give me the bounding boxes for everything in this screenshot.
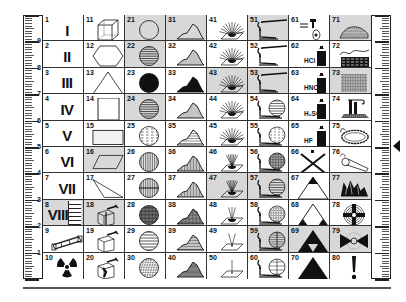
pillar-structure-icon (338, 98, 370, 120)
symbol-cell-10: 10 (43, 253, 84, 279)
symbol-cell-58: 58 (248, 200, 289, 226)
ruler-tick (25, 171, 32, 172)
mountain-outline-icon (174, 19, 206, 41)
ruler-tick (25, 97, 32, 98)
ruler-tick (25, 234, 32, 235)
symbol-cell-40: 40 (166, 253, 207, 279)
ruler-tick (382, 63, 389, 64)
chemical-formula-label: HCl (304, 57, 315, 64)
ruler-tick (380, 239, 389, 240)
ruler-tick (25, 131, 32, 132)
cell-number: 2 (45, 42, 49, 49)
ruler-tick (382, 179, 389, 180)
burst-plane-icon (215, 98, 247, 120)
torch-circle-crosshatch-icon (256, 151, 288, 173)
ruler-tick (382, 176, 389, 177)
symbol-cell-28: 28 (125, 200, 166, 226)
ruler-tick (25, 250, 32, 251)
ruler-tick (382, 247, 389, 248)
chemical-formula-label: H₂SO₄ (304, 110, 324, 117)
ruler-tick (382, 65, 389, 66)
ruler-tick (382, 202, 389, 203)
layered-mound-icon (338, 19, 370, 41)
ruler-tick (25, 271, 32, 272)
few-rays-plane-icon (215, 204, 247, 226)
ruler-tick (25, 15, 39, 17)
symbol-cell-42: 42 (207, 41, 248, 67)
ruler-tick (382, 33, 389, 34)
ruler-tick (25, 142, 32, 143)
ruler-tick (375, 94, 389, 96)
circle-empty-icon (133, 19, 165, 41)
ruler-tick (25, 115, 32, 116)
symbol-cell-70: 70 (289, 253, 330, 279)
torch-circle-dashed-icon (256, 125, 288, 147)
ruler-tick (25, 216, 32, 217)
two-rays-plane-icon (215, 230, 247, 252)
symbol-cell-39: 39 (166, 226, 207, 252)
symbol-cell-13: 13 (84, 68, 125, 94)
symbol-cell-24: 24 (125, 94, 166, 120)
ruler-tick (25, 205, 32, 206)
symbol-cell-41: 41 (207, 15, 248, 41)
ruler-label: 6 (37, 117, 41, 124)
ruler-tick (375, 279, 389, 281)
ruler-tick (382, 234, 389, 235)
ruler-tick (382, 31, 389, 32)
symbol-cell-32: 32 (166, 41, 207, 67)
rectangle-icon (92, 125, 124, 147)
rock-layers-icon (338, 45, 370, 67)
roman-numeral: IV (51, 98, 83, 120)
symbol-cell-6: 6VI (43, 147, 84, 173)
ruler-tick (25, 274, 32, 275)
cell-number: 9 (45, 227, 49, 234)
ruler-tick (25, 73, 32, 74)
roman-numeral: II (51, 45, 83, 67)
ruler-tick (382, 49, 389, 50)
ruler-tick (375, 147, 389, 149)
whistle-icon (338, 151, 370, 173)
bowtie-sphere-icon (338, 230, 370, 252)
ruler-tick (25, 202, 32, 203)
mountain-dashed-icon (174, 125, 206, 147)
ruler-tick (382, 20, 389, 21)
symbol-cell-73: 73 (330, 68, 371, 94)
ruler-tick (382, 171, 389, 172)
split-box-hammer-icon (92, 204, 124, 226)
ruler-tick (382, 150, 389, 151)
symbol-cell-29: 29 (125, 226, 166, 252)
ruler-tick (382, 26, 389, 27)
ruler-tick (25, 129, 32, 130)
symbol-cell-57: 57 (248, 173, 289, 199)
ruler-tick (25, 242, 32, 243)
ruler-tick (25, 113, 32, 114)
ruler-tick (380, 134, 389, 135)
symbol-cell-2: 2II (43, 41, 84, 67)
symbol-cell-51: 51 (248, 15, 289, 41)
roman-numeral: V (51, 125, 83, 147)
symbol-cell-17: 17 (84, 173, 125, 199)
roman-numeral-label: VI (60, 153, 73, 170)
ruler-tick (25, 107, 34, 108)
ruler-tick (382, 110, 389, 111)
cube-icon (92, 19, 124, 41)
ruler-tick (25, 55, 34, 56)
ruler-tick (25, 78, 32, 79)
roman-numeral: I (51, 19, 83, 41)
mountain-filled-icon (174, 72, 206, 94)
roman-numeral-label: III (61, 74, 72, 91)
ruler-tick (25, 150, 32, 151)
narrow-burst-plane-icon (215, 151, 247, 173)
dropper-icon (297, 19, 329, 41)
circle-wide-lines-icon (133, 230, 165, 252)
ruler-tick (25, 33, 32, 34)
ruler-tick (25, 105, 32, 106)
ruler-tick (382, 142, 389, 143)
mountain-crosshatch-icon (174, 204, 206, 226)
ruler-tick (25, 168, 32, 169)
symbol-cell-12: 12 (84, 41, 125, 67)
ruler-tick (25, 255, 32, 256)
ruler-tick (382, 97, 389, 98)
ruler-tick (25, 245, 32, 246)
ruler-tick (25, 60, 32, 61)
